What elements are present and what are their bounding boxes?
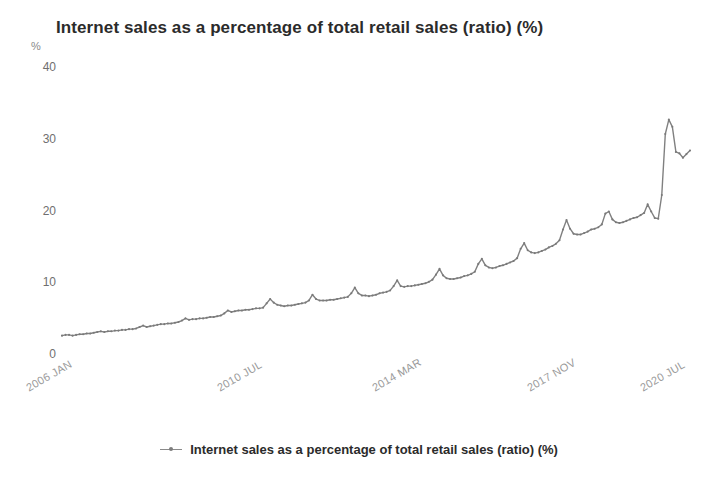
data-point: [650, 210, 652, 212]
data-point: [181, 320, 183, 322]
data-point: [558, 239, 560, 241]
data-point: [562, 228, 564, 230]
data-point: [548, 246, 550, 248]
data-point: [273, 302, 275, 304]
data-point: [336, 298, 338, 300]
data-point: [326, 299, 328, 301]
data-point: [435, 274, 437, 276]
data-point: [280, 304, 282, 306]
data-point: [290, 304, 292, 306]
data-point: [477, 263, 479, 265]
data-point: [297, 303, 299, 305]
data-point: [375, 294, 377, 296]
data-point: [163, 323, 165, 325]
data-point: [89, 332, 91, 334]
data-point: [68, 334, 70, 336]
data-point: [583, 232, 585, 234]
data-point: [569, 228, 571, 230]
data-point: [135, 327, 137, 329]
data-point: [146, 326, 148, 328]
data-point: [308, 299, 310, 301]
data-point: [202, 317, 204, 319]
data-point: [421, 283, 423, 285]
data-point: [417, 284, 419, 286]
data-point: [414, 284, 416, 286]
data-point: [580, 233, 582, 235]
data-point: [357, 292, 359, 294]
data-point: [195, 318, 197, 320]
data-point: [513, 260, 515, 262]
data-point: [505, 263, 507, 265]
chart-legend: Internet sales as a percentage of total …: [0, 442, 718, 457]
data-point: [618, 222, 620, 224]
data-point: [463, 275, 465, 277]
data-point: [541, 250, 543, 252]
data-point: [629, 218, 631, 220]
data-point: [124, 329, 126, 331]
data-point: [643, 212, 645, 214]
data-point: [460, 276, 462, 278]
data-point: [251, 308, 253, 310]
data-point: [438, 268, 440, 270]
chart-container: Internet sales as a percentage of total …: [0, 0, 718, 483]
data-point: [682, 157, 684, 159]
data-point: [587, 231, 589, 233]
data-point: [647, 203, 649, 205]
data-point: [520, 248, 522, 250]
data-point: [213, 316, 215, 318]
data-point: [294, 304, 296, 306]
data-point: [276, 304, 278, 306]
data-point: [160, 323, 162, 325]
data-point: [523, 242, 525, 244]
data-point: [262, 307, 264, 309]
data-point: [340, 297, 342, 299]
data-point: [223, 312, 225, 314]
data-point: [555, 243, 557, 245]
data-point: [590, 228, 592, 230]
data-point: [527, 249, 529, 251]
data-point: [93, 332, 95, 334]
data-point: [382, 292, 384, 294]
data-point: [100, 330, 102, 332]
data-point: [301, 302, 303, 304]
data-point: [368, 295, 370, 297]
data-point: [449, 278, 451, 280]
data-point: [72, 335, 74, 337]
data-point: [664, 133, 666, 135]
data-point: [516, 257, 518, 259]
data-point: [304, 302, 306, 304]
data-point: [544, 248, 546, 250]
data-point: [689, 149, 691, 151]
data-point: [678, 152, 680, 154]
legend-line-marker-icon: [160, 445, 182, 455]
data-point: [671, 126, 673, 128]
data-point: [234, 310, 236, 312]
data-point: [199, 317, 201, 319]
legend-label: Internet sales as a percentage of total …: [190, 442, 558, 457]
data-point: [311, 294, 313, 296]
data-point: [216, 315, 218, 317]
data-point: [502, 264, 504, 266]
data-point: [573, 233, 575, 235]
data-point: [244, 309, 246, 311]
data-point: [685, 153, 687, 155]
data-point: [495, 266, 497, 268]
data-point: [153, 325, 155, 327]
data-point: [474, 271, 476, 273]
data-point: [657, 218, 659, 220]
data-point: [396, 279, 398, 281]
data-point: [347, 296, 349, 298]
data-point: [625, 220, 627, 222]
data-point: [393, 285, 395, 287]
data-point: [410, 285, 412, 287]
data-point: [132, 328, 134, 330]
data-point: [209, 316, 211, 318]
data-point: [319, 299, 321, 301]
data-point: [446, 277, 448, 279]
data-point: [400, 285, 402, 287]
data-point: [322, 299, 324, 301]
data-point: [594, 228, 596, 230]
data-point: [364, 294, 366, 296]
data-point: [188, 319, 190, 321]
data-point: [661, 194, 663, 196]
